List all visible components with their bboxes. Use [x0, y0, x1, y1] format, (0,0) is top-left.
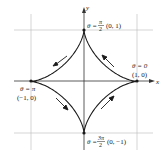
x-axis-arrow-icon	[149, 79, 155, 83]
svg-text:(1, 0): (1, 0)	[132, 71, 148, 79]
svg-text:2: 2	[99, 142, 102, 148]
svg-text:(0, 1): (0, 1)	[106, 22, 122, 30]
label-bottom: θ = 3π 2 (0, −1)	[87, 135, 127, 148]
arrow-lower-right-icon	[101, 96, 114, 109]
point-right	[135, 79, 138, 82]
x-axis-label: x	[155, 78, 160, 86]
svg-text:π: π	[99, 19, 103, 25]
svg-text:θ =: θ =	[87, 22, 97, 30]
point-bottom	[82, 131, 85, 134]
point-left	[29, 79, 32, 82]
arrow-upper-right-icon	[102, 55, 114, 67]
svg-text:2: 2	[99, 26, 102, 32]
direction-arrows	[53, 55, 114, 110]
svg-text:θ = π: θ = π	[20, 85, 36, 93]
svg-text:(0, −1): (0, −1)	[107, 138, 127, 146]
arrow-lower-left-icon	[56, 98, 68, 110]
svg-text:θ = 0: θ = 0	[132, 62, 148, 70]
svg-text:3π: 3π	[97, 135, 105, 141]
astroid-diagram: x y θ = π 2 (0, 1)	[0, 0, 165, 157]
label-right: θ = 0 (1, 0)	[132, 62, 148, 79]
y-axis-label: y	[85, 4, 90, 12]
point-top	[82, 28, 85, 31]
svg-text:θ =: θ =	[87, 138, 97, 146]
svg-text:(−1, 0): (−1, 0)	[17, 94, 37, 102]
label-left: θ = π (−1, 0)	[17, 85, 37, 102]
arrow-upper-left-icon	[53, 56, 67, 66]
